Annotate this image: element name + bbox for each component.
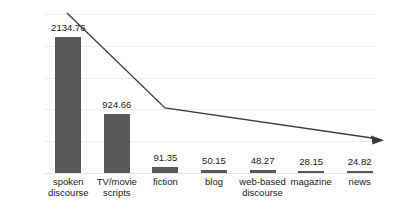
bar-value-label: 50.15	[202, 156, 226, 166]
x-tick-label-magazine: magazine	[287, 176, 336, 187]
x-label-line2: scripts	[93, 187, 142, 198]
x-label-line1: spoken	[44, 176, 93, 187]
bar-blog[interactable]	[201, 170, 227, 173]
bar-group-spoken-discourse[interactable]: 2134.76	[44, 14, 93, 173]
chart-container: 2500 2000 1500 1000 500 0 2134.76 924.66…	[0, 0, 406, 214]
bar-value-label: 48.27	[251, 156, 275, 166]
bar-group-magazine[interactable]: 28.15	[287, 14, 336, 173]
x-label-line1: web-based	[234, 176, 291, 187]
bar-value-label: 24.82	[348, 157, 372, 167]
bar-fiction[interactable]	[152, 167, 178, 173]
bar-spoken-discourse[interactable]	[55, 37, 81, 173]
x-label-line2: discourse	[44, 187, 93, 198]
x-label-line1: fiction	[141, 176, 190, 187]
x-tick-label-spoken-discourse: spoken discourse	[44, 176, 93, 198]
axis-baseline	[44, 173, 376, 174]
bar-news[interactable]	[347, 171, 373, 173]
x-tick-label-news: news	[335, 176, 384, 187]
bar-value-label: 924.66	[102, 100, 131, 110]
bar-group-blog[interactable]: 50.15	[190, 14, 239, 173]
x-label-line1: magazine	[287, 176, 336, 187]
bar-group-fiction[interactable]: 91.35	[141, 14, 190, 173]
x-label-line2: discourse	[234, 187, 291, 198]
x-tick-label-web-based-discourse: web-based discourse	[234, 176, 291, 198]
x-label-line1: blog	[190, 176, 239, 187]
bar-value-label: 2134.76	[51, 23, 85, 33]
x-label-line1: news	[335, 176, 384, 187]
x-tick-label-fiction: fiction	[141, 176, 190, 187]
bar-group-news[interactable]: 24.82	[335, 14, 384, 173]
x-axis-categories: spoken discourse TV/movie scripts fictio…	[44, 176, 384, 210]
bar-series: 2134.76 924.66 91.35 50.15 48.27 28.15 2…	[44, 14, 384, 173]
bar-group-tv-movie-scripts[interactable]: 924.66	[93, 14, 142, 173]
bar-group-web-based-discourse[interactable]: 48.27	[238, 14, 287, 173]
x-tick-label-blog: blog	[190, 176, 239, 187]
bar-tv-movie-scripts[interactable]	[104, 114, 130, 173]
bar-value-label: 91.35	[154, 153, 178, 163]
bar-web-based-discourse[interactable]	[250, 170, 276, 173]
x-tick-label-tv-movie-scripts: TV/movie scripts	[93, 176, 142, 198]
bar-value-label: 28.15	[299, 157, 323, 167]
x-label-line1: TV/movie	[93, 176, 142, 187]
bar-magazine[interactable]	[298, 171, 324, 173]
